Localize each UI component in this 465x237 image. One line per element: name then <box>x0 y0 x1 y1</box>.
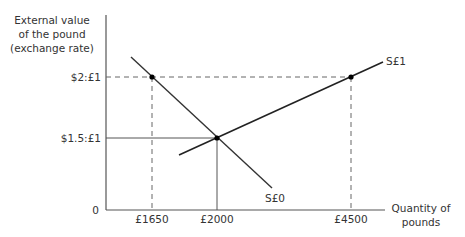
x-axis-title-line2: pounds <box>402 216 441 228</box>
x-axis-title-line1: Quantity of <box>392 202 451 214</box>
point-equilibrium <box>214 135 219 140</box>
x-tick-4500: £4500 <box>334 213 367 225</box>
point-1650-2 <box>149 74 154 79</box>
point-4500-2 <box>348 74 353 79</box>
exchange-rate-diagram: External value of the pound (exchange ra… <box>0 0 465 237</box>
x-tick-1650: £1650 <box>135 213 168 225</box>
y-tick-2: $2:£1 <box>71 71 101 83</box>
origin-label: 0 <box>92 204 99 216</box>
curve-s0-label: S£0 <box>265 192 285 204</box>
x-tick-2000: £2000 <box>200 213 233 225</box>
y-axis-title-line1: External value <box>14 14 90 26</box>
y-axis-title-line2: of the pound <box>18 28 85 40</box>
y-tick-1-5: $1.5:£1 <box>61 132 101 144</box>
y-axis-title-line3: (exchange rate) <box>10 42 94 54</box>
curve-s1-label: S£1 <box>386 55 406 67</box>
